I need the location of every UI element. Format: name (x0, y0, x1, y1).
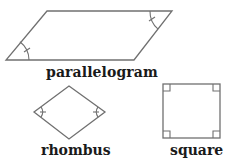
right-angle-mark-tr (213, 84, 220, 91)
square-label: square (170, 142, 223, 158)
square-shape (163, 84, 220, 138)
shapes-diagram (0, 0, 232, 163)
rhombus-shape (34, 86, 105, 139)
angle-mark-bottom-left (20, 42, 29, 60)
parallelogram-shape (6, 11, 172, 60)
parallelogram-label: parallelogram (46, 64, 158, 80)
right-angle-mark-br (213, 131, 220, 138)
right-angle-mark-tl (163, 84, 170, 91)
right-angle-mark-bl (163, 131, 170, 138)
rhombus-label: rhombus (41, 142, 111, 158)
